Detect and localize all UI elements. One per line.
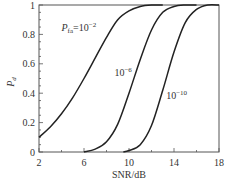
x-tick-label: 10 [124,157,134,168]
x-tick-label: 18 [214,157,224,168]
y-tick-label: 0.6 [23,58,36,69]
curve-series-3 [123,5,219,152]
y-tick-label: 0.8 [23,29,36,40]
curve-label-2: 10−6 [114,66,132,78]
y-tick-label: 0.2 [23,117,36,128]
detection-probability-chart: 26101418 00.20.40.60.81 Pfa=10−210−610−1… [0,0,225,182]
curve-annotations: Pfa=10−210−610−10 [61,21,188,101]
x-tick-label: 2 [37,157,42,168]
y-tick-labels: 00.20.40.60.81 [23,0,36,158]
x-tick-label: 6 [82,157,87,168]
svg-text:Pd: Pd [5,77,18,88]
curve-series-1 [39,5,163,137]
y-tick-label: 0.4 [23,88,36,99]
curve-label-3: 10−10 [166,89,187,101]
y-tick-label: 1 [30,0,35,11]
y-tick-label: 0 [30,147,35,158]
y-axis-title: Pd [5,77,18,88]
curve-label-1: Pfa=10−2 [61,21,97,35]
x-tick-labels: 26101418 [37,157,225,168]
x-tick-label: 14 [169,157,179,168]
x-axis-title: SNR/dB [112,169,146,180]
curve-series-2 [84,5,197,152]
